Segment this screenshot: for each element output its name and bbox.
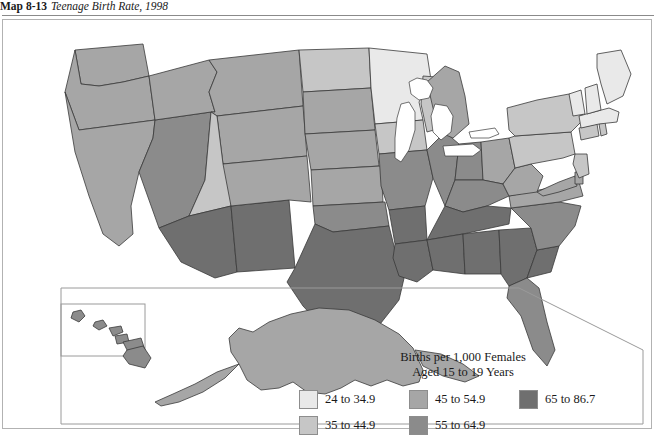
state-me[interactable] <box>597 50 631 104</box>
legend-title-line-2: Aged 15 to 19 Years <box>343 365 583 380</box>
state-hi-island-1[interactable] <box>71 310 85 322</box>
legend-title-line-1: Births per 1,000 Females <box>343 350 583 365</box>
state-hi-island-2[interactable] <box>93 320 107 330</box>
state-id[interactable] <box>149 60 217 120</box>
state-nd[interactable] <box>299 48 371 92</box>
state-ks[interactable] <box>311 166 383 206</box>
state-ar[interactable] <box>389 206 427 244</box>
legend-label-4: 65 to 86.7 <box>545 391 595 408</box>
legend-swatch-2 <box>409 390 428 409</box>
state-mt[interactable] <box>209 50 303 116</box>
map-caption: Map 8-13Teenage Birth Rate, 1998 <box>0 0 656 14</box>
legend-swatch-3 <box>409 416 428 435</box>
map-legend: Births per 1,000 Females Aged 15 to 19 Y… <box>295 350 625 439</box>
state-ms[interactable] <box>427 234 465 274</box>
legend-title: Births per 1,000 Females Aged 15 to 19 Y… <box>343 350 583 380</box>
lake-erie-icon <box>443 144 481 156</box>
legend-label-2: 45 to 54.9 <box>435 391 485 408</box>
legend-swatch-4 <box>519 390 538 409</box>
legend-label-1: 35 to 44.9 <box>325 417 375 434</box>
map-caption-title: Teenage Birth Rate, 1998 <box>51 0 168 12</box>
state-pa[interactable] <box>509 132 575 168</box>
state-sd[interactable] <box>303 88 375 134</box>
lake-ontario-icon <box>469 128 499 138</box>
state-la[interactable] <box>393 240 433 282</box>
state-al[interactable] <box>463 230 501 274</box>
state-nh[interactable] <box>585 84 601 114</box>
legend-label-3: 55 to 64.9 <box>435 417 485 434</box>
state-wy[interactable] <box>217 106 307 164</box>
legend-label-0: 24 to 34.9 <box>325 391 375 408</box>
state-ak-aleutians[interactable] <box>155 364 239 406</box>
legend-swatch-0 <box>299 390 318 409</box>
caption-divider <box>2 15 654 16</box>
state-nm[interactable] <box>231 200 295 272</box>
state-ne[interactable] <box>305 130 379 170</box>
state-hi-island-3[interactable] <box>109 326 123 336</box>
legend-swatch-1 <box>299 416 318 435</box>
map-caption-number: Map 8-13 <box>0 0 47 12</box>
state-mo[interactable] <box>379 150 433 210</box>
state-co[interactable] <box>223 156 311 206</box>
map-frame: Births per 1,000 Females Aged 15 to 19 Y… <box>2 19 652 429</box>
